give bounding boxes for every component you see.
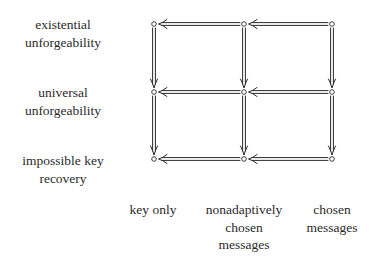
arrow-left-icon <box>159 20 241 29</box>
arrow-left-icon <box>159 155 241 164</box>
node-circle-icon <box>152 22 157 27</box>
node-circle-icon <box>152 157 157 162</box>
arrow-down-icon <box>241 28 248 88</box>
arrow-down-icon <box>151 28 158 88</box>
arrow-down-icon <box>241 96 248 155</box>
arrow-down-icon <box>151 96 158 155</box>
implication-grid <box>0 0 375 263</box>
node-circle-icon <box>242 157 247 162</box>
node-circle-icon <box>242 90 247 95</box>
node-circle-icon <box>242 22 247 27</box>
arrow-left-icon <box>249 88 329 97</box>
node-circle-icon <box>330 157 335 162</box>
node-circle-icon <box>330 22 335 27</box>
arrow-left-icon <box>159 88 241 97</box>
arrow-down-icon <box>329 96 336 155</box>
arrow-left-icon <box>249 155 329 164</box>
node-circle-icon <box>152 90 157 95</box>
node-circle-icon <box>330 90 335 95</box>
arrow-left-icon <box>249 20 329 29</box>
arrow-down-icon <box>329 28 336 88</box>
